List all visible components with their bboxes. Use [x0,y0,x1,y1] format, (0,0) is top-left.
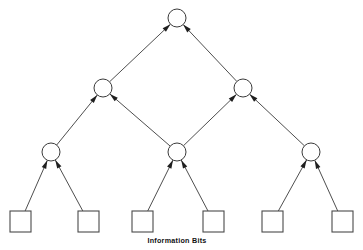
check-node-low-mid[interactable] [168,143,186,161]
check-node-mid-right[interactable] [234,79,252,97]
arrow-head-icon [181,160,187,169]
check-node-root[interactable] [168,9,186,27]
edge-bit4-to-low-mid [181,160,208,211]
arrow-head-icon [167,160,173,169]
edge-mid-left-to-root [110,24,171,82]
information-bit-3[interactable] [132,211,153,232]
edge-bit2-to-low-left [55,160,83,211]
edge-mid-right-to-root [183,25,237,82]
check-node-low-left[interactable] [42,143,60,161]
diagram-canvas: Information Bits [0,0,363,250]
edge-bit3-to-low-mid [148,160,173,211]
arrow-head-icon [300,160,306,169]
edge-bit1-to-low-left [25,160,47,211]
information-bit-2[interactable] [78,211,99,232]
information-bit-layer [10,211,353,232]
edge-line [278,160,306,211]
edge-line [148,160,173,211]
information-bit-5[interactable] [262,211,283,232]
edge-line [250,94,305,146]
edge-low-left-to-mid-left [57,95,98,145]
edge-low-right-to-mid-right [250,94,305,146]
check-node-low-right[interactable] [302,143,320,161]
edge-layer [25,24,338,211]
information-bit-4[interactable] [203,211,224,232]
edge-bit5-to-low-right [278,160,306,211]
edge-line [110,24,171,82]
check-node-layer [42,9,320,161]
arrow-head-icon [55,160,61,169]
tree-diagram-figure: Information Bits [0,0,363,250]
information-bit-1[interactable] [10,211,31,232]
edge-line [55,160,83,211]
arrow-head-icon [315,160,321,169]
check-node-mid-left[interactable] [94,79,112,97]
edge-line [183,25,237,82]
information-bit-6[interactable] [332,211,353,232]
edge-low-mid-to-mid-right [183,94,236,145]
edge-low-mid-to-mid-left [110,94,170,146]
edge-line [57,95,98,145]
edge-line [183,94,236,145]
arrow-head-icon [42,160,48,169]
edge-line [181,160,208,211]
caption-information-bits: Information Bits [147,236,206,245]
edge-line [110,94,170,146]
edge-bit6-to-low-right [315,160,338,211]
